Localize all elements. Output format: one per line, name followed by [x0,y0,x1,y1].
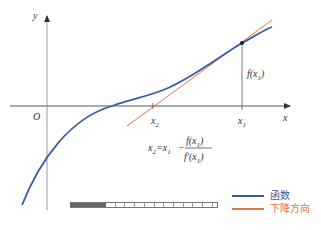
y-axis-label: y [32,10,38,21]
legend-item-function: 函数 [232,189,310,202]
legend-item-descent-direction: 下降方向 [232,202,310,215]
animation-scrubber[interactable] [70,202,218,208]
function-swatch-icon [232,195,264,197]
legend: 函数 下降方向 [232,189,310,215]
newton-update-formula: x2=x1 − f(x1) f′(x1) [147,135,212,165]
svg-text:x2=x1: x2=x1 [147,142,171,156]
x-axis-label: x [282,112,288,123]
fx1-label: f(x1) [247,68,265,82]
x1-label: x1 [237,115,246,129]
origin-label: O [33,111,40,122]
scrubber-progress [71,203,106,207]
descent-swatch-icon [232,208,264,210]
function-curve [22,27,272,205]
x2-label: x2 [150,115,159,129]
svg-text:f′(x1): f′(x1) [184,151,204,165]
legend-label: 函数 [270,189,290,202]
scrubber-track[interactable] [106,203,217,207]
tangent-point [240,41,244,45]
svg-text:f(x1): f(x1) [186,135,204,149]
legend-label: 下降方向 [270,202,310,215]
